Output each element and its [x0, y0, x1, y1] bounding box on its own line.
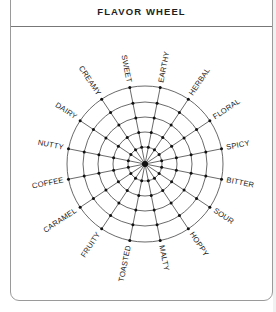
- flavor-label-hoppy: HOPPY: [188, 230, 211, 258]
- intersection-dot: [117, 145, 120, 148]
- intersection-dot: [195, 197, 198, 200]
- intersection-dot: [129, 153, 132, 156]
- intersection-dot: [147, 146, 150, 149]
- intersection-dot: [158, 153, 161, 156]
- intersection-dot: [187, 227, 190, 230]
- intersection-dot: [112, 156, 115, 159]
- intersection-dot: [175, 169, 178, 172]
- intersection-dot: [160, 159, 163, 162]
- flavor-label-coffee: COFFEE: [31, 175, 64, 190]
- intersection-dot: [128, 239, 131, 242]
- intersection-dot: [187, 98, 190, 101]
- flavor-label-spicy: SPICY: [225, 138, 250, 151]
- flavor-label-fruity: FRUITY: [79, 230, 102, 259]
- intersection-dot: [147, 179, 150, 182]
- intersection-dot: [159, 86, 162, 89]
- flavor-label-dairy: DAIRY: [54, 100, 79, 121]
- intersection-dot: [67, 147, 70, 150]
- flavor-label-malty: MALTY: [157, 244, 171, 271]
- flavor-label-earthy: EARTHY: [156, 50, 171, 83]
- flavor-label-sour: SOUR: [212, 206, 236, 226]
- intersection-dot: [159, 239, 162, 242]
- intersection-dot: [127, 159, 130, 162]
- intersection-dot: [153, 116, 156, 119]
- flavor-label-bitter: BITTER: [226, 175, 256, 189]
- intersection-dot: [158, 172, 161, 175]
- intersection-dot: [137, 194, 140, 197]
- flavor-label-toasted: TOASTED: [117, 244, 133, 282]
- intersection-dot: [161, 136, 164, 139]
- intersection-dot: [79, 119, 82, 122]
- flavor-label-herbal: HERBAL: [187, 66, 212, 97]
- intersection-dot: [79, 206, 82, 209]
- intersection-dot: [150, 131, 153, 134]
- intersection-dot: [140, 179, 143, 182]
- intersection-dot: [170, 145, 173, 148]
- intersection-dot: [92, 197, 95, 200]
- intersection-dot: [134, 209, 137, 212]
- intersection-dot: [156, 223, 159, 226]
- center-dot: [142, 161, 148, 167]
- intersection-dot: [109, 214, 112, 217]
- intersection-dot: [190, 172, 193, 175]
- intersection-dot: [170, 123, 173, 126]
- intersection-dot: [161, 189, 164, 192]
- intersection-dot: [83, 175, 86, 178]
- intersection-dot: [117, 180, 120, 183]
- intersection-dot: [131, 102, 134, 105]
- flavor-wheel-diagram: SWEETEARTHYHERBALFLORALSPICYBITTERSOURHO…: [0, 0, 276, 312]
- intersection-dot: [140, 146, 143, 149]
- intersection-dot: [112, 169, 115, 172]
- intersection-dot: [134, 148, 137, 151]
- intersection-dot: [92, 128, 95, 131]
- intersection-dot: [97, 172, 100, 175]
- flavor-label-creamy: CREAMY: [77, 64, 103, 97]
- intersection-dot: [100, 227, 103, 230]
- intersection-dot: [109, 111, 112, 114]
- intersection-dot: [104, 189, 107, 192]
- intersection-dot: [190, 153, 193, 156]
- intersection-dot: [150, 194, 153, 197]
- flavor-label-caramel: CARAMEL: [42, 206, 79, 235]
- intersection-dot: [134, 177, 137, 180]
- intersection-dot: [220, 147, 223, 150]
- intersection-dot: [183, 136, 186, 139]
- intersection-dot: [175, 156, 178, 159]
- flavor-label-nutty: NUTTY: [37, 138, 65, 152]
- intersection-dot: [67, 178, 70, 181]
- intersection-dot: [126, 136, 129, 139]
- intersection-dot: [208, 206, 211, 209]
- intersection-dot: [127, 166, 130, 169]
- intersection-dot: [183, 189, 186, 192]
- intersection-dot: [170, 180, 173, 183]
- intersection-dot: [204, 150, 207, 153]
- intersection-dot: [208, 119, 211, 122]
- intersection-dot: [178, 111, 181, 114]
- intersection-dot: [153, 177, 156, 180]
- intersection-dot: [134, 116, 137, 119]
- intersection-dot: [220, 178, 223, 181]
- intersection-dot: [97, 153, 100, 156]
- wheel-intersection-dots: [67, 86, 223, 242]
- intersection-dot: [195, 128, 198, 131]
- intersection-dot: [128, 86, 131, 89]
- intersection-dot: [131, 223, 134, 226]
- intersection-dot: [170, 202, 173, 205]
- intersection-dot: [117, 123, 120, 126]
- intersection-dot: [104, 136, 107, 139]
- intersection-dot: [153, 148, 156, 151]
- flavor-label-floral: FLORAL: [211, 97, 242, 122]
- flavor-label-sweet: SWEET: [119, 54, 133, 83]
- intersection-dot: [117, 202, 120, 205]
- intersection-dot: [204, 175, 207, 178]
- intersection-dot: [129, 172, 132, 175]
- intersection-dot: [178, 214, 181, 217]
- intersection-dot: [156, 102, 159, 105]
- intersection-dot: [83, 150, 86, 153]
- intersection-dot: [153, 209, 156, 212]
- intersection-dot: [126, 189, 129, 192]
- intersection-dot: [160, 166, 163, 169]
- intersection-dot: [137, 131, 140, 134]
- intersection-dot: [100, 98, 103, 101]
